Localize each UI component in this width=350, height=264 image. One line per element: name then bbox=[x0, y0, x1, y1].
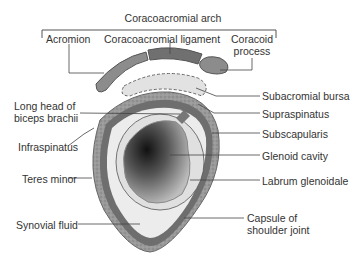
label-supraspinatus: Supraspinatus bbox=[262, 108, 329, 120]
label-long-head-biceps-line1: Long head of bbox=[14, 100, 75, 112]
label-coracoacromial-ligament: Coracoacromial ligament bbox=[104, 33, 220, 45]
label-capsule-line2: shoulder joint bbox=[247, 224, 309, 236]
label-coracoid-process-line1: Coracoid bbox=[230, 33, 274, 45]
label-teres-minor: Teres minor bbox=[22, 173, 77, 185]
label-capsule-line1: Capsule of bbox=[247, 212, 297, 224]
label-infraspinatus: Infraspinatus bbox=[18, 141, 78, 153]
label-synovial-fluid: Synovial fluid bbox=[16, 219, 78, 231]
label-coracoid-process-line2: process bbox=[230, 45, 274, 57]
title-coracoacromial-arch: Coracoacromial arch bbox=[108, 12, 238, 24]
label-long-head-biceps-line2: biceps brachii bbox=[14, 112, 78, 124]
coracoid-bone bbox=[200, 57, 228, 74]
label-subscapularis: Subscapularis bbox=[262, 128, 328, 140]
label-subacromial-bursa: Subacromial bursa bbox=[262, 90, 350, 102]
label-labrum-glenoidale: Labrum glenoidale bbox=[262, 175, 348, 187]
coracoacromial-ligament-shape bbox=[148, 48, 202, 64]
label-acromion: Acromion bbox=[46, 33, 90, 45]
label-glenoid-cavity: Glenoid cavity bbox=[262, 150, 328, 162]
